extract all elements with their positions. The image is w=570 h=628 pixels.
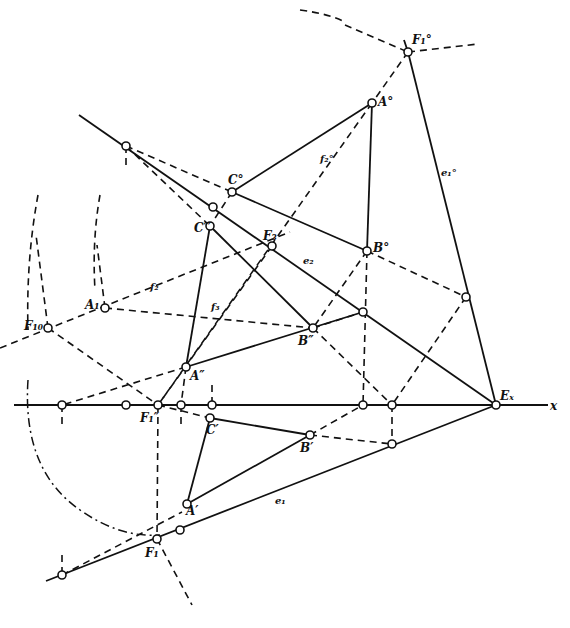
point-C-0 (228, 188, 236, 196)
point-A1 (101, 304, 109, 312)
dash-A1-B2 (105, 308, 313, 328)
dash-topleft-C3 (126, 146, 210, 226)
dash-B0-x5 (363, 251, 367, 405)
label-f2: f₂ (149, 281, 159, 292)
label-F1-0: F₁₀ (23, 319, 44, 333)
label-e2: e₂ (303, 255, 314, 266)
point-x1 (58, 401, 66, 409)
arc-left-outer (28, 195, 38, 330)
point-F1-0 (44, 324, 52, 332)
arc-left-inner (94, 195, 100, 290)
label-A-0: A° (377, 95, 393, 109)
dash-f2-0 (158, 103, 372, 405)
label-f2-0: f₂° (319, 153, 334, 164)
label-F3: F₃ (262, 229, 277, 243)
label-e1: e₁ (275, 495, 286, 506)
point-top-left (122, 142, 130, 150)
label-A-1: A′ (185, 504, 199, 518)
x-axis-label: x (549, 399, 558, 413)
dash-B1-e1 (310, 435, 392, 444)
point-A-2 (182, 363, 190, 371)
line-C3-A2 (186, 226, 210, 367)
label-F1: F₁ (144, 546, 159, 560)
label-A-2: A″ (189, 369, 205, 383)
point-e2-B (359, 308, 367, 316)
label-C-0: C° (228, 173, 244, 187)
label-B-2: B″ (297, 334, 314, 348)
dash-B0-B2 (313, 251, 367, 328)
line-C0-A0 (232, 103, 372, 192)
points (44, 48, 500, 579)
dash-F1top-left (345, 25, 408, 52)
point-x5 (359, 401, 367, 409)
point-B-1 (306, 431, 314, 439)
dash-F10-up (36, 235, 48, 328)
line-C0-B0 (232, 192, 367, 251)
label-F1-0-top: F₁° (411, 33, 432, 47)
line-A1-B1 (187, 435, 310, 504)
dash-F12-F1 (157, 405, 158, 539)
point-F1-2 (154, 401, 162, 409)
dash-e1end-A1 (62, 512, 182, 575)
label-B-1: B′ (299, 441, 314, 455)
point-e1-end (58, 571, 66, 579)
point-x2 (122, 401, 130, 409)
label-A1: A₁ (84, 298, 100, 312)
label-B-0: B° (372, 241, 389, 255)
label-Ex: Eₓ (499, 389, 514, 403)
point-C-1 (206, 414, 214, 422)
point-A-0 (368, 99, 376, 107)
point-x4 (208, 401, 216, 409)
dash-B0-right (367, 251, 466, 297)
dash-F1-down (157, 539, 192, 605)
point-F1 (153, 535, 161, 543)
line-C1-B1 (210, 418, 310, 435)
point-x3 (177, 401, 185, 409)
point-e1-0-mid (462, 293, 470, 301)
point-B-2 (309, 324, 317, 332)
geometry-diagram: x (0, 0, 570, 628)
point-e1-A (176, 526, 184, 534)
point-Ex (492, 401, 500, 409)
dash-F10-A2 (48, 328, 158, 405)
point-F3 (268, 242, 276, 250)
label-C-1: C′ (206, 423, 220, 437)
label-F1-2: F₁″ (139, 411, 160, 425)
dash-A2-x1 (62, 367, 186, 405)
line-e1 (46, 405, 496, 581)
arc-top (300, 10, 345, 22)
arc-lower-left (27, 380, 160, 535)
label-e1-0: e₁° (441, 167, 457, 178)
point-B-0 (363, 247, 371, 255)
dash-B2-x6 (313, 328, 392, 405)
dash-B1-x5 (310, 405, 363, 435)
point-e1 (388, 440, 396, 448)
point-x6 (388, 401, 396, 409)
dash-466-x6 (392, 297, 466, 405)
point-F1-0-top (404, 48, 412, 56)
label-C-3: C‴ (194, 221, 212, 235)
point-e2-C (209, 203, 217, 211)
line-e2 (79, 115, 496, 405)
label-f3: f₃ (210, 301, 220, 312)
line-A0-B0 (367, 103, 372, 251)
